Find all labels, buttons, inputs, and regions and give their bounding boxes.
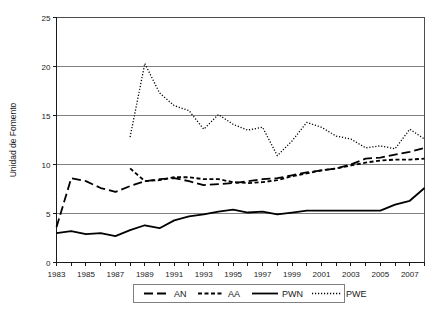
y-axis: 0510152025 [42, 14, 57, 268]
y-tick-label-5: 5 [46, 210, 51, 219]
x-tick-label-2005: 2005 [371, 270, 389, 279]
series-line-pwn [57, 188, 425, 236]
x-tick-label-1989: 1989 [136, 270, 154, 279]
y-axis-title-text: Unidad de Fomento [8, 102, 18, 177]
x-tick-label-1995: 1995 [224, 270, 242, 279]
gridlines [57, 18, 425, 214]
y-tick-label-15: 15 [42, 112, 51, 121]
x-tick-label-1999: 1999 [283, 270, 301, 279]
y-tick-label-20: 20 [42, 63, 51, 72]
series-line-an [57, 148, 425, 227]
y-tick-label-25: 25 [42, 14, 51, 23]
chart-page: 0510152025 19831985198719891991199319951… [0, 0, 441, 316]
plot-frame [57, 18, 425, 263]
x-axis: 1983198519871989199119931995199719992001… [48, 263, 425, 279]
chart-legend: ANAAPWNPWE [134, 285, 367, 303]
legend-label-pwn: PWN [282, 289, 303, 299]
x-tick-label-2007: 2007 [401, 270, 419, 279]
x-tick-label-1991: 1991 [165, 270, 183, 279]
x-tick-label-1997: 1997 [254, 270, 272, 279]
x-tick-label-2003: 2003 [342, 270, 360, 279]
legend-label-an: AN [174, 289, 187, 299]
y-tick-label-10: 10 [42, 161, 51, 170]
line-chart: 0510152025 19831985198719891991199319951… [0, 0, 441, 316]
x-tick-label-1983: 1983 [48, 270, 66, 279]
y-axis-title: Unidad de Fomento [8, 102, 18, 177]
x-tick-label-1993: 1993 [195, 270, 213, 279]
x-tick-label-2001: 2001 [313, 270, 331, 279]
x-tick-label-1985: 1985 [77, 270, 95, 279]
legend-label-pwe: PWE [346, 289, 367, 299]
series-line-pwe [130, 64, 424, 156]
plot-border [57, 18, 425, 263]
series-line-aa [130, 159, 424, 184]
series-lines [57, 64, 425, 236]
x-tick-label-1987: 1987 [106, 270, 124, 279]
legend-label-aa: AA [228, 289, 240, 299]
y-tick-label-0: 0 [46, 259, 51, 268]
